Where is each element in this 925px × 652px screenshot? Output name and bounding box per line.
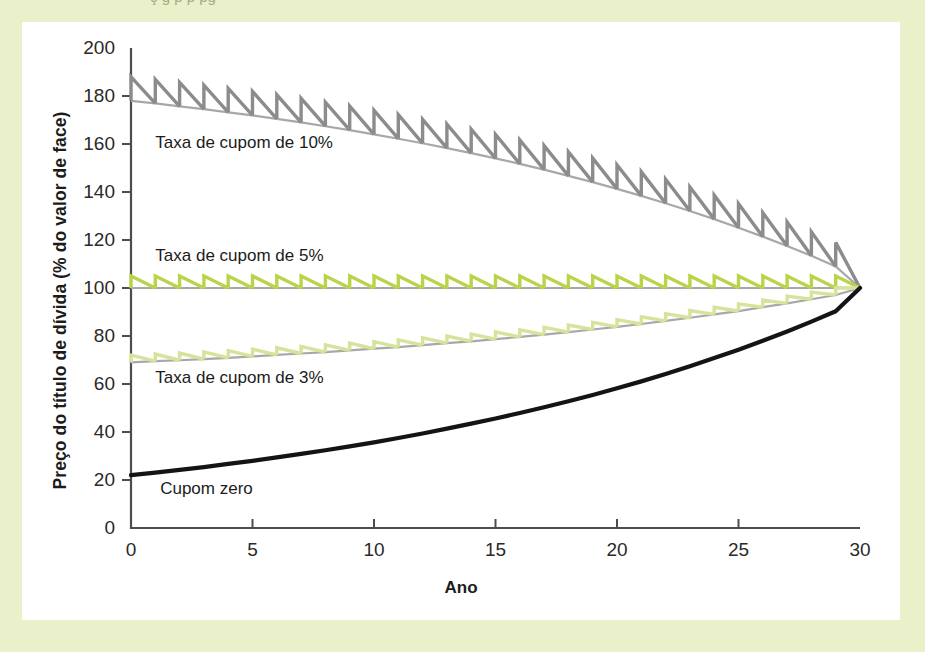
page-top-strip: ç g p p pg (0, 0, 925, 22)
chart-figure: Preço do título de dívida (% do valor de… (22, 22, 900, 620)
series-0 (131, 288, 860, 475)
series-10 (131, 77, 860, 288)
series-5 (131, 276, 860, 288)
clipped-caption-text: ç g p p pg (150, 0, 216, 5)
figure-card: Preço do título de dívida (% do valor de… (22, 22, 900, 620)
series-3 (131, 288, 860, 363)
plot-canvas (22, 22, 900, 620)
